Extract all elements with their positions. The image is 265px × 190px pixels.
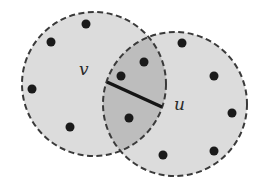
node-dot <box>178 39 187 48</box>
node-dot <box>140 58 149 67</box>
node-dot <box>28 85 37 94</box>
node-dot <box>117 72 126 81</box>
node-dot <box>82 20 91 29</box>
node-dot <box>159 151 168 160</box>
overlapping-disks-diagram: v u <box>0 0 265 190</box>
node-dot <box>210 72 219 81</box>
node-dot <box>47 38 56 47</box>
label-v: v <box>79 59 89 79</box>
node-dot <box>125 114 134 123</box>
node-dot <box>210 147 219 156</box>
diagram-canvas: v u <box>0 0 265 190</box>
node-dot <box>66 123 75 132</box>
label-u: u <box>174 94 185 114</box>
node-dot <box>228 109 237 118</box>
